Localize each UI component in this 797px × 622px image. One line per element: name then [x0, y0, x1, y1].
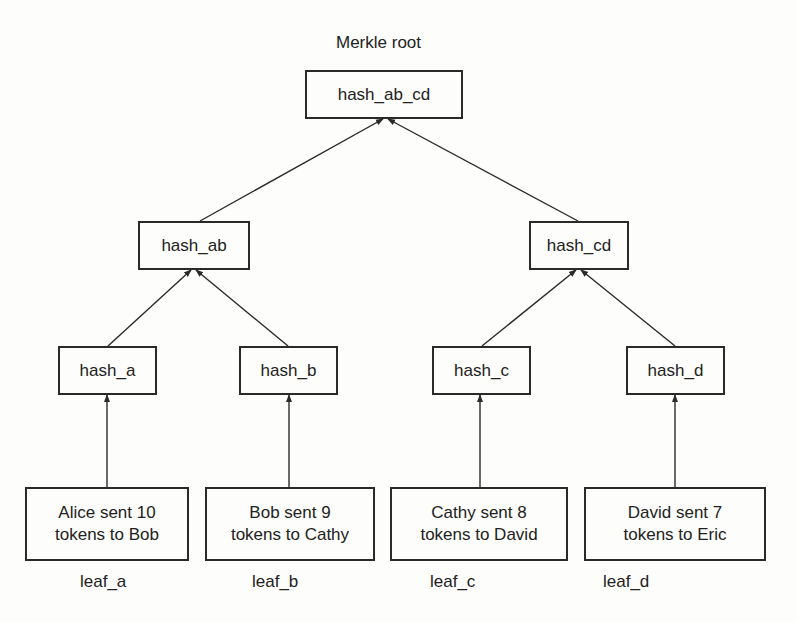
leaf-b-line2: tokens to Cathy	[231, 524, 349, 546]
leaf-d-line1: David sent 7	[628, 502, 723, 524]
leaf-a-label: leaf_a	[80, 572, 126, 592]
node-root: hash_ab_cd	[305, 70, 463, 119]
leaf-d: David sent 7 tokens to Eric	[584, 487, 766, 561]
leaf-c-label: leaf_c	[430, 572, 475, 592]
leaf-d-line2: tokens to Eric	[624, 524, 727, 546]
leaf-b: Bob sent 9 tokens to Cathy	[205, 487, 375, 561]
node-hash_d: hash_d	[626, 346, 725, 395]
leaf-d-label: leaf_d	[603, 572, 649, 592]
leaf-a-line1: Alice sent 10	[58, 502, 155, 524]
edge-hash_cd-to-root	[388, 119, 578, 221]
edge-hash_b-to-hash_ab	[196, 270, 288, 346]
node-hash_cd: hash_cd	[529, 221, 629, 270]
edge-hash_c-to-hash_cd	[482, 270, 576, 346]
merkle-root-title: Merkle root	[336, 33, 421, 53]
node-hash_ab: hash_ab	[138, 221, 250, 270]
node-hash_b: hash_b	[239, 346, 338, 395]
node-hash_c: hash_c	[432, 346, 531, 395]
leaf-c-line1: Cathy sent 8	[431, 502, 526, 524]
edge-hash_a-to-hash_ab	[108, 270, 191, 346]
leaf-a-line2: tokens to Bob	[55, 524, 159, 546]
leaf-b-label: leaf_b	[252, 572, 298, 592]
leaf-a: Alice sent 10 tokens to Bob	[25, 487, 189, 561]
leaf-b-line1: Bob sent 9	[249, 502, 330, 524]
node-hash_a: hash_a	[58, 346, 157, 395]
edge-hash_ab-to-root	[200, 119, 383, 221]
leaf-c-line2: tokens to David	[420, 524, 537, 546]
edge-hash_d-to-hash_cd	[581, 270, 675, 346]
leaf-c: Cathy sent 8 tokens to David	[390, 487, 568, 561]
